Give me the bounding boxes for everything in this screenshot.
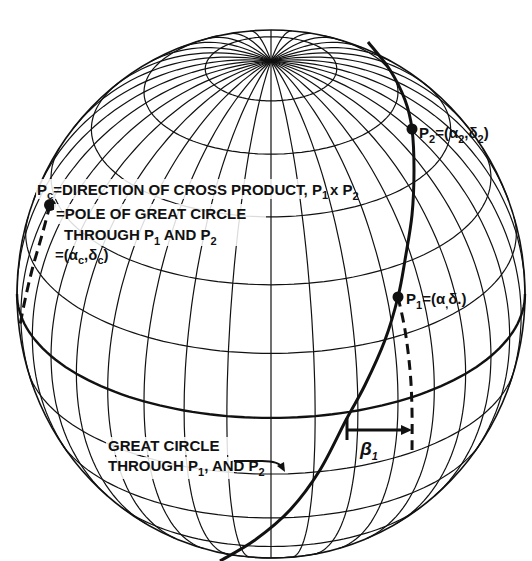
great-circle-label-line1: GREAT CIRCLE [108, 437, 219, 454]
pc-annotation: Pc=DIRECTION OF CROSS PRODUCT, P1x P2 =P… [36, 179, 359, 266]
great-circle-annotation: GREAT CIRCLE THROUGH P1, AND P2 [106, 437, 265, 479]
meridian-line [51, 61, 271, 496]
pc-dashed-meridian [20, 205, 50, 325]
beta1-label: β1 [359, 438, 378, 462]
beta-arrowhead-icon [401, 425, 412, 435]
meridian-line [184, 61, 271, 554]
meridian-line [271, 61, 521, 387]
p1-label: P1=(α,δ.) [406, 290, 466, 311]
celestial-sphere-figure: P2=(α2,δ2) P1=(α,δ.) Pc=DIRECTION OF CRO… [0, 0, 532, 561]
point-p2-marker [407, 124, 418, 135]
point-p1-marker [393, 292, 404, 303]
sphere-diagram-svg: P2=(α2,δ2) P1=(α,δ.) Pc=DIRECTION OF CRO… [0, 0, 532, 561]
pc-definition-line4: =(αc,δc) [55, 246, 109, 266]
pc-definition-line2: =POLE OF GREAT CIRCLE [56, 205, 246, 222]
